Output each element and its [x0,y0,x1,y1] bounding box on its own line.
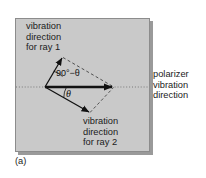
angle-label-small: θ [66,88,71,99]
label-ray2-line3: for ray 2 [83,137,118,148]
label-polarizer-direction: polarizer vibration direction [153,69,189,101]
angle-label-small-text: θ [66,88,71,99]
angle-label-large-text: 90°−θ [56,68,80,78]
dashed-construction-line-ray2 [90,88,114,113]
label-ray1-line2: direction [26,32,61,43]
label-polarizer-line2: vibration [153,80,189,91]
figure-caption: (a) [15,156,26,167]
label-ray1-line1: vibration [26,21,61,32]
label-ray1-line3: for ray 1 [26,42,61,53]
label-ray1: vibration direction for ray 1 [26,21,61,53]
label-ray2-line2: direction [83,127,118,138]
label-polarizer-line3: direction [153,90,189,101]
angle-label-large: 90°−θ [56,68,80,78]
label-ray2-line1: vibration [83,116,118,127]
figure-polarizer-vibration-diagram: 90°−θ θ vibration direction for ray 1 vi… [0,0,206,178]
label-polarizer-line1: polarizer [153,69,189,80]
label-ray2: vibration direction for ray 2 [83,116,118,148]
